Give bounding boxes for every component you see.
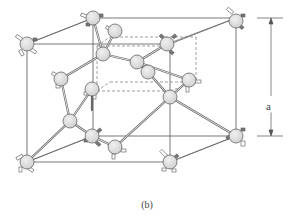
atom-corner-front-top-left xyxy=(20,37,34,51)
atom-corner-front-bottom-right xyxy=(163,155,177,169)
bond-stubs xyxy=(15,7,245,172)
figure-caption: (b) xyxy=(0,199,294,210)
atom-interior-1 xyxy=(96,47,110,61)
atom-face-left xyxy=(54,72,68,86)
atom-face-right xyxy=(182,73,196,87)
atom-face-bottom-back xyxy=(85,129,99,143)
unit-cell-frame xyxy=(27,18,236,162)
atom-face-top-right xyxy=(160,37,174,51)
inner-dashed-cube xyxy=(97,37,196,91)
atom-interior-3 xyxy=(85,82,99,96)
atom-interior-5 xyxy=(63,114,77,128)
atom-interior-2 xyxy=(130,55,144,69)
atom-face-back xyxy=(141,65,155,79)
atom-face-front xyxy=(108,140,122,154)
lattice-constant-label: a xyxy=(266,99,271,113)
bonds xyxy=(27,18,236,162)
atom-interior-4 xyxy=(163,90,177,104)
atom-face-top xyxy=(108,24,122,38)
atom-corner-back-top-left xyxy=(86,11,100,25)
atom-corner-front-bottom-left xyxy=(20,155,34,169)
atoms xyxy=(20,11,243,169)
atom-corner-back-bottom-right xyxy=(229,129,243,143)
diamond-cubic-unit-cell-diagram xyxy=(0,0,294,220)
atom-corner-back-top-right xyxy=(229,14,243,28)
lattice-constant-dimension xyxy=(257,18,283,136)
